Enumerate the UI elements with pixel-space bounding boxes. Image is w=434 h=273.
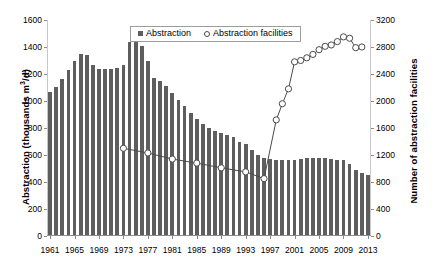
- data-point-marker: [285, 86, 291, 92]
- y-axis-left-tick-label: 800: [28, 123, 42, 133]
- y-axis-right-tick-label: 400: [376, 204, 390, 214]
- y-axis-left-title-sup: 3: [19, 80, 26, 84]
- x-axis-tick-label: 1965: [65, 245, 84, 255]
- legend-label-abstraction-facilities: Abstraction facilities: [213, 29, 293, 38]
- chart-legend: Abstraction Abstraction facilities: [130, 26, 301, 42]
- line-series-abstraction-facilities: [47, 20, 371, 236]
- y-axis-left-tick-mark: [44, 128, 47, 129]
- data-point-marker: [145, 150, 151, 156]
- y-axis-right-tick-mark: [371, 47, 374, 48]
- data-point-marker: [353, 45, 359, 51]
- y-axis-right-title: Number of abstraction facilities: [408, 51, 419, 211]
- y-axis-left-tick-mark: [44, 236, 47, 237]
- plot-area: 02004006008001000120014001600 0400800120…: [47, 20, 371, 236]
- x-axis-tick-label: 1997: [261, 245, 280, 255]
- y-axis-left-tick-label: 1400: [23, 42, 42, 52]
- data-point-marker: [194, 160, 200, 166]
- x-axis-tick-mark: [343, 236, 344, 239]
- y-axis-right-tick-mark: [371, 74, 374, 75]
- y-axis-left-tick-label: 1600: [23, 15, 42, 25]
- y-axis-left-tick-mark: [44, 101, 47, 102]
- x-axis-tick-label: 2005: [310, 245, 329, 255]
- y-axis-left-tick-mark: [44, 47, 47, 48]
- data-point-marker: [273, 117, 279, 123]
- y-axis-right-tick-label: 0: [376, 231, 381, 241]
- y-axis-left-tick-mark: [44, 182, 47, 183]
- y-axis-right-tick-mark: [371, 128, 374, 129]
- y-axis-right-tick-mark: [371, 236, 374, 237]
- data-point-marker: [261, 176, 267, 182]
- y-axis-right-tick-label: 2400: [376, 69, 395, 79]
- x-axis-tick-label: 1981: [163, 245, 182, 255]
- y-axis-left-tick-mark: [44, 74, 47, 75]
- x-axis-tick-label: 1969: [89, 245, 108, 255]
- data-point-marker: [310, 51, 316, 57]
- data-point-marker: [347, 35, 353, 41]
- legend-label-abstraction: Abstraction: [146, 29, 191, 38]
- x-axis-line: [47, 235, 371, 236]
- x-axis-tick-mark: [99, 236, 100, 239]
- y-axis-right-tick-label: 2800: [376, 42, 395, 52]
- y-axis-left-tick-label: 1200: [23, 69, 42, 79]
- y-axis-left-tick-label: 600: [28, 150, 42, 160]
- x-axis-tick-mark: [197, 236, 198, 239]
- y-axis-right-tick-mark: [371, 101, 374, 102]
- y-axis-right-tick-mark: [371, 155, 374, 156]
- y-axis-left-tick-label: 1000: [23, 96, 42, 106]
- y-axis-left-tick-mark: [44, 20, 47, 21]
- x-axis-tick-mark: [148, 236, 149, 239]
- data-point-marker: [243, 169, 249, 175]
- x-axis-tick-label: 1973: [114, 245, 133, 255]
- data-point-marker: [218, 165, 224, 171]
- x-axis-tick-mark: [123, 236, 124, 239]
- x-axis-tick-mark: [246, 236, 247, 239]
- legend-item-abstraction-facilities: Abstraction facilities: [204, 29, 293, 38]
- x-axis-tick-label: 2001: [285, 245, 304, 255]
- y-axis-left-tick-label: 0: [37, 231, 42, 241]
- data-point-marker: [169, 156, 175, 162]
- y-axis-right-tick-label: 1200: [376, 150, 395, 160]
- x-axis-tick-label: 1993: [236, 245, 255, 255]
- x-axis-tick-label: 1977: [138, 245, 157, 255]
- x-axis-tick-mark: [368, 236, 369, 239]
- x-axis-tick-label: 1961: [41, 245, 60, 255]
- filled-square-icon: [138, 31, 143, 36]
- x-axis-tick-mark: [50, 236, 51, 239]
- data-point-marker: [291, 59, 297, 65]
- data-point-marker: [328, 42, 334, 48]
- x-axis-tick-label: 2009: [334, 245, 353, 255]
- data-point-marker: [120, 145, 126, 151]
- x-axis-tick-mark: [75, 236, 76, 239]
- x-axis-tick-mark: [295, 236, 296, 239]
- x-axis-tick-label: 2013: [358, 245, 377, 255]
- x-axis-tick-mark: [270, 236, 271, 239]
- x-axis-tick-mark: [221, 236, 222, 239]
- data-point-marker: [322, 43, 328, 49]
- y-axis-left-tick-label: 400: [28, 177, 42, 187]
- x-axis-tick-mark: [172, 236, 173, 239]
- data-point-marker: [359, 44, 365, 50]
- y-axis-right-tick-label: 3200: [376, 15, 395, 25]
- data-point-marker: [316, 47, 322, 53]
- y-axis-left-tick-label: 200: [28, 204, 42, 214]
- data-point-marker: [298, 57, 304, 63]
- x-axis-tick-label: 1989: [212, 245, 231, 255]
- y-axis-left-tick-mark: [44, 209, 47, 210]
- y-axis-right-tick-mark: [371, 182, 374, 183]
- y-axis-right-tick-mark: [371, 209, 374, 210]
- data-point-marker: [304, 55, 310, 61]
- data-point-marker: [340, 34, 346, 40]
- x-axis-tick-mark: [319, 236, 320, 239]
- y-axis-right-tick-mark: [371, 20, 374, 21]
- y-axis-left-tick-mark: [44, 155, 47, 156]
- open-circle-icon: [204, 31, 210, 37]
- abstraction-chart: Abstraction (thousands m3/d) Number of a…: [0, 0, 434, 273]
- y-axis-left-title: Abstraction (thousands m3/d): [19, 57, 31, 217]
- data-point-marker: [279, 101, 285, 107]
- line-path: [123, 37, 361, 179]
- y-axis-right-tick-label: 800: [376, 177, 390, 187]
- x-axis-tick-label: 1985: [187, 245, 206, 255]
- y-axis-right-tick-label: 2000: [376, 96, 395, 106]
- data-point-marker: [334, 39, 340, 45]
- legend-item-abstraction: Abstraction: [138, 29, 191, 38]
